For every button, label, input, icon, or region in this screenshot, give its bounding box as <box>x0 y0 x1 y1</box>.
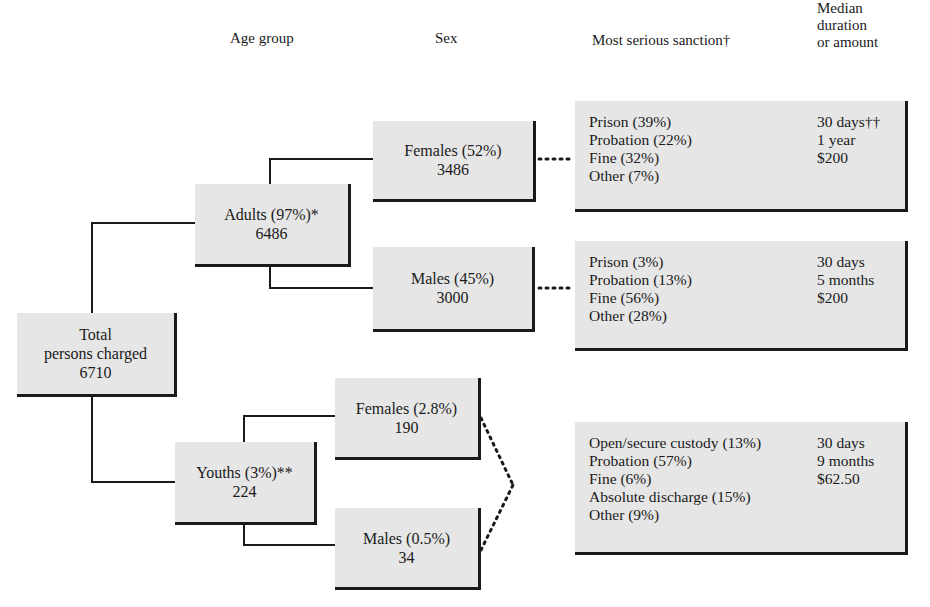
sanction-label: Other (9%) <box>589 506 659 524</box>
sanction-value: $200 <box>817 289 848 307</box>
sanction-label: Prison (39%) <box>589 113 671 131</box>
sanction-row: Other (9%) <box>589 506 905 524</box>
adult-females-count: 3486 <box>437 160 469 179</box>
node-adult-females: Females (52%) 3486 <box>373 121 536 202</box>
sanction-value: 30 days <box>817 253 865 271</box>
sanction-box-youths: Open/secure custody (13%)30 days Probati… <box>575 422 908 555</box>
youth-males-count: 34 <box>399 548 415 567</box>
total-line1: Total <box>79 325 112 344</box>
sanction-row: Fine (6%)$62.50 <box>589 470 905 488</box>
sanction-value: 1 year <box>817 131 855 149</box>
sanction-label: Probation (57%) <box>589 452 692 470</box>
node-adult-males: Males (45%) 3000 <box>373 247 535 332</box>
adult-males-label: Males (45%) <box>411 269 494 288</box>
sanction-row: Prison (3%)30 days <box>589 253 905 271</box>
sanction-label: Probation (13%) <box>589 271 692 289</box>
node-total: Total persons charged 6710 <box>17 313 177 397</box>
header-age-group: Age group <box>230 30 294 47</box>
adults-label: Adults (97%)* <box>224 205 319 224</box>
sanction-row: Probation (22%)1 year <box>589 131 905 149</box>
sanction-row: Fine (56%)$200 <box>589 289 905 307</box>
sanction-label: Absolute discharge (15%) <box>589 488 751 506</box>
sanction-label: Fine (32%) <box>589 149 659 167</box>
sanction-value: 5 months <box>817 271 874 289</box>
sanction-row: Probation (13%)5 months <box>589 271 905 289</box>
node-youths: Youths (3%)** 224 <box>175 442 317 525</box>
sanction-row: Absolute discharge (15%) <box>589 488 905 506</box>
header-sex: Sex <box>435 30 458 47</box>
total-line2: persons charged <box>44 344 147 363</box>
sanction-value: $62.50 <box>817 470 860 488</box>
sanction-row: Other (28%) <box>589 307 905 325</box>
youth-females-label: Females (2.8%) <box>356 399 457 418</box>
sanction-label: Prison (3%) <box>589 253 663 271</box>
sanction-label: Probation (22%) <box>589 131 692 149</box>
sanction-label: Open/secure custody (13%) <box>589 434 761 452</box>
node-adults: Adults (97%)* 6486 <box>195 184 351 267</box>
sanction-box-adult-males: Prison (3%)30 days Probation (13%)5 mont… <box>575 241 908 351</box>
header-median-line2: duration <box>817 17 878 34</box>
youth-males-label: Males (0.5%) <box>363 529 450 548</box>
youths-label: Youths (3%)** <box>196 463 293 482</box>
sanction-row: Prison (39%)30 days†† <box>589 113 905 131</box>
sanction-row: Open/secure custody (13%)30 days <box>589 434 905 452</box>
header-sanction: Most serious sanction† <box>592 32 730 49</box>
youth-females-count: 190 <box>395 418 419 437</box>
sanction-label: Other (7%) <box>589 167 659 185</box>
sanction-value: 30 days†† <box>817 113 880 131</box>
sanction-row: Probation (57%)9 months <box>589 452 905 470</box>
sanction-box-adult-females: Prison (39%)30 days†† Probation (22%)1 y… <box>575 101 908 212</box>
header-median-line3: or amount <box>817 34 878 51</box>
node-youth-males: Males (0.5%) 34 <box>335 508 481 590</box>
sanction-value: 9 months <box>817 452 874 470</box>
sanction-label: Fine (6%) <box>589 470 651 488</box>
sanction-label: Fine (56%) <box>589 289 659 307</box>
header-median: Median duration or amount <box>817 0 878 51</box>
header-median-line1: Median <box>817 0 878 17</box>
adults-count: 6486 <box>256 224 288 243</box>
adult-females-label: Females (52%) <box>404 141 501 160</box>
node-youth-females: Females (2.8%) 190 <box>335 378 481 460</box>
sanction-label: Other (28%) <box>589 307 667 325</box>
sanction-row: Other (7%) <box>589 167 905 185</box>
sanction-value: 30 days <box>817 434 865 452</box>
youths-count: 224 <box>233 482 257 501</box>
total-count: 6710 <box>80 363 112 382</box>
sanction-value: $200 <box>817 149 848 167</box>
sanction-row: Fine (32%)$200 <box>589 149 905 167</box>
adult-males-count: 3000 <box>437 288 469 307</box>
